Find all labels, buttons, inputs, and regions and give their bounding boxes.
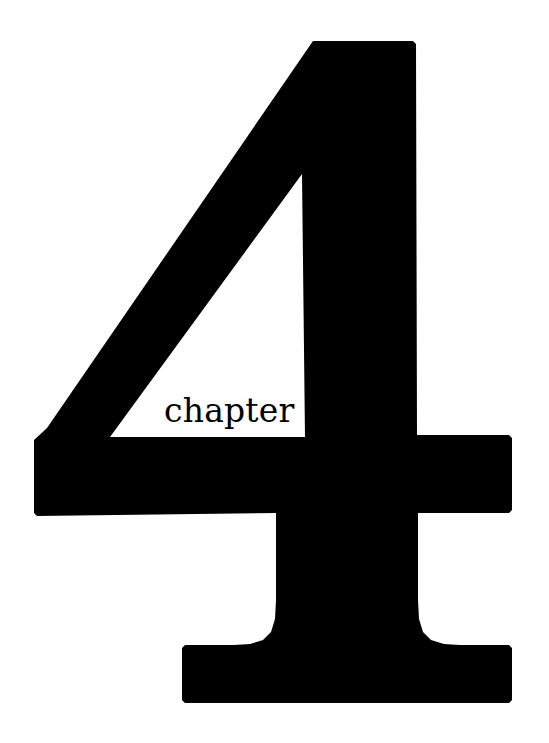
numeral-four-icon [0,0,549,743]
page-canvas: chapter [0,0,549,743]
chapter-label: chapter [164,394,295,427]
chapter-opener: chapter [0,0,549,743]
